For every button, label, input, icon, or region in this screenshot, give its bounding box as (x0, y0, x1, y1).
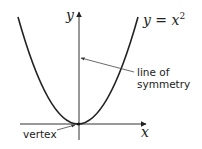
vertex-point (77, 122, 80, 125)
equation-prefix: y = x (142, 12, 180, 28)
symmetry-pointer-arrow (81, 58, 134, 72)
line-of-symmetry-label-1: line of (137, 66, 170, 78)
equation-exponent: 2 (179, 11, 185, 21)
parabola-curve (18, 17, 138, 124)
equation-label: y = x2 (142, 11, 185, 28)
x-axis-label: x (141, 124, 149, 140)
y-axis-label: y (65, 7, 75, 23)
parabola-diagram: y x y = x2 line of symmetry vertex (0, 0, 202, 149)
line-of-symmetry-label-2: symmetry (137, 78, 190, 90)
vertex-label: vertex (23, 128, 57, 140)
vertex-pointer-arrow (57, 125, 75, 130)
